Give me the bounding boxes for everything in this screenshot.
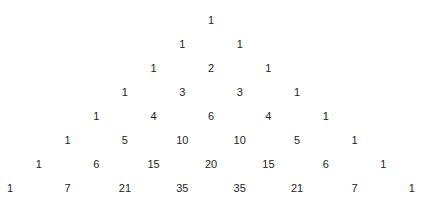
triangle-cell: 4 [265, 111, 271, 122]
triangle-cell: 7 [351, 183, 357, 194]
pascal-triangle: 1111211331146411510105116152015611721353… [0, 0, 434, 210]
triangle-cell: 1 [409, 183, 415, 194]
triangle-cell: 1 [122, 87, 128, 98]
triangle-cell: 1 [64, 135, 70, 146]
triangle-cell: 1 [351, 135, 357, 146]
triangle-cell: 1 [7, 183, 13, 194]
triangle-cell: 7 [64, 183, 70, 194]
triangle-cell: 20 [205, 159, 217, 170]
triangle-cell: 1 [265, 63, 271, 74]
triangle-cell: 5 [122, 135, 128, 146]
triangle-cell: 2 [208, 63, 214, 74]
triangle-cell: 6 [323, 159, 329, 170]
triangle-cell: 3 [179, 87, 185, 98]
triangle-cell: 6 [93, 159, 99, 170]
triangle-cell: 5 [294, 135, 300, 146]
triangle-cell: 21 [119, 183, 131, 194]
triangle-cell: 4 [151, 111, 157, 122]
triangle-cell: 1 [93, 111, 99, 122]
triangle-cell: 1 [208, 15, 214, 26]
triangle-cell: 10 [176, 135, 188, 146]
triangle-cell: 1 [151, 63, 157, 74]
triangle-cell: 3 [237, 87, 243, 98]
triangle-cell: 21 [291, 183, 303, 194]
triangle-cell: 35 [176, 183, 188, 194]
triangle-cell: 10 [234, 135, 246, 146]
triangle-cell: 15 [262, 159, 274, 170]
triangle-cell: 1 [36, 159, 42, 170]
triangle-cell: 1 [179, 39, 185, 50]
triangle-cell: 1 [294, 87, 300, 98]
triangle-cell: 1 [237, 39, 243, 50]
triangle-cell: 1 [380, 159, 386, 170]
triangle-cell: 6 [208, 111, 214, 122]
triangle-cell: 35 [234, 183, 246, 194]
triangle-cell: 15 [147, 159, 159, 170]
triangle-cell: 1 [323, 111, 329, 122]
